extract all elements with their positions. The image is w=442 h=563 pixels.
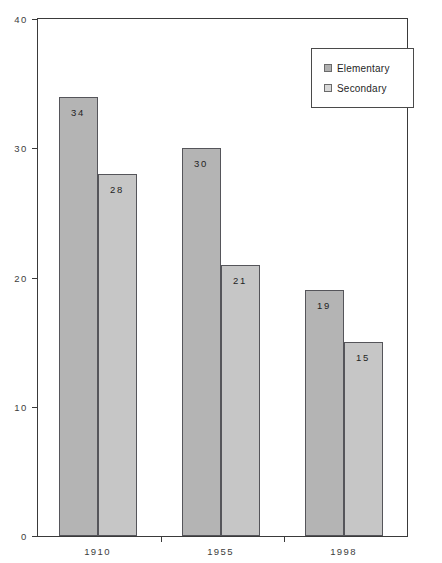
legend-item-elementary[interactable]: Elementary [324, 58, 413, 78]
legend-swatch-elementary-icon [324, 64, 332, 72]
x-tick-label: 1955 [207, 546, 234, 557]
x-tick-label: 1998 [330, 546, 357, 557]
x-tick-label: 1910 [84, 546, 111, 557]
legend-swatch-secondary-icon [324, 84, 332, 92]
bar-chart: 010203040 342830211915 191019551998 Elem… [0, 0, 442, 563]
legend-label: Secondary [337, 83, 387, 94]
legend-label: Elementary [337, 63, 390, 74]
x-tick-mark [161, 537, 162, 542]
legend-item-secondary[interactable]: Secondary [324, 78, 413, 98]
x-tick-mark [284, 537, 285, 542]
chart-legend: ElementarySecondary [311, 48, 414, 108]
